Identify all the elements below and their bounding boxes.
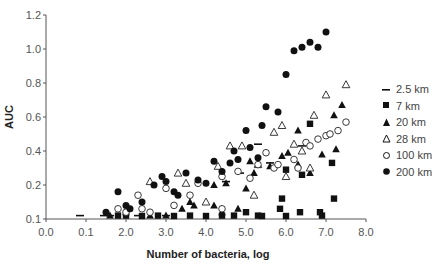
data-point-filled-circle bbox=[175, 192, 182, 199]
dash-marker-icon bbox=[382, 85, 391, 94]
data-point-open-triangle bbox=[282, 173, 290, 180]
data-point-square bbox=[243, 209, 249, 215]
data-point-filled-circle bbox=[291, 47, 298, 54]
data-point-open-circle bbox=[327, 131, 334, 138]
data-point-square bbox=[259, 213, 265, 219]
data-point-filled-circle bbox=[315, 44, 322, 51]
data-point-open-triangle bbox=[290, 140, 298, 147]
data-point-square bbox=[331, 195, 337, 201]
data-point-square bbox=[203, 213, 209, 219]
data-point-open-circle bbox=[343, 119, 350, 126]
data-point-open-circle bbox=[307, 143, 314, 150]
data-point-square bbox=[231, 212, 237, 218]
data-point-open-circle bbox=[219, 206, 226, 213]
data-point-filled-circle bbox=[243, 127, 250, 134]
data-point-filled-circle bbox=[211, 158, 218, 165]
legend-label: 20 km bbox=[396, 116, 426, 128]
x-tick-label: 5.0 bbox=[238, 226, 253, 238]
filled-circle-marker-icon bbox=[382, 167, 391, 176]
legend-item-2-5km: 2.5 km bbox=[382, 81, 432, 98]
data-point-filled-circle bbox=[203, 180, 210, 187]
data-point-open-circle bbox=[263, 149, 270, 156]
x-tick-label: 7.0 bbox=[318, 226, 333, 238]
data-point-open-circle bbox=[115, 206, 122, 213]
data-point-filled-circle bbox=[307, 39, 314, 46]
data-point-filled-circle bbox=[151, 182, 158, 189]
x-tick-label: 4.0 bbox=[198, 226, 213, 238]
data-point-filled-triangle bbox=[210, 181, 218, 188]
data-point-open-triangle bbox=[174, 169, 182, 176]
data-point-open-triangle bbox=[298, 147, 306, 154]
scatter-chart: 0.10.20.40.60.81.01.2 0.00.12.03.04.05.0… bbox=[0, 0, 437, 264]
data-point-open-triangle bbox=[310, 111, 318, 118]
legend-label: 28 km bbox=[396, 133, 426, 145]
data-point-filled-triangle bbox=[178, 205, 186, 212]
x-tick-label: 0.1 bbox=[78, 226, 93, 238]
square-marker-icon bbox=[382, 101, 391, 110]
data-point-dash bbox=[76, 215, 84, 217]
data-point-filled-circle bbox=[139, 199, 146, 206]
data-point-filled-circle bbox=[183, 170, 190, 177]
data-point-filled-circle bbox=[275, 108, 282, 115]
data-point-square bbox=[319, 212, 325, 218]
legend-item-20km: 20 km bbox=[382, 114, 432, 131]
data-point-filled-circle bbox=[195, 176, 202, 183]
data-point-square bbox=[283, 213, 289, 219]
data-point-filled-circle bbox=[227, 159, 234, 166]
y-tick-label: 1.2 bbox=[26, 9, 41, 21]
data-point-filled-triangle bbox=[330, 111, 338, 118]
y-tick-label: 0.1 bbox=[26, 213, 41, 225]
x-tick-label: 8.0 bbox=[358, 226, 373, 238]
data-point-open-circle bbox=[247, 175, 254, 182]
data-point-filled-triangle bbox=[222, 179, 230, 186]
x-tick-label: 2.0 bbox=[118, 226, 133, 238]
data-point-square bbox=[307, 121, 313, 127]
data-point-open-triangle bbox=[306, 164, 314, 171]
data-point-open-circle bbox=[335, 127, 342, 134]
data-point-open-circle bbox=[187, 192, 194, 199]
legend-label: 2.5 km bbox=[396, 83, 429, 95]
y-tick-label: 0.6 bbox=[26, 111, 41, 123]
legend-label: 100 km bbox=[396, 149, 432, 161]
data-point-open-triangle bbox=[278, 122, 286, 129]
data-point-open-circle bbox=[135, 192, 142, 199]
y-tick-label: 1.0 bbox=[26, 43, 41, 55]
data-point-filled-triangle bbox=[318, 150, 326, 157]
data-point-open-triangle bbox=[270, 128, 278, 135]
filled-triangle-marker-icon bbox=[382, 118, 391, 127]
data-point-filled-circle bbox=[247, 144, 254, 151]
y-tick-label: 0.4 bbox=[26, 145, 41, 157]
data-point-square bbox=[329, 160, 335, 166]
data-points bbox=[76, 29, 350, 220]
data-point-open-triangle bbox=[322, 91, 330, 98]
data-point-square bbox=[277, 206, 283, 212]
data-point-filled-triangle bbox=[332, 145, 340, 152]
data-point-open-circle bbox=[295, 165, 302, 172]
data-point-open-circle bbox=[315, 136, 322, 143]
data-point-filled-triangle bbox=[284, 149, 292, 156]
data-point-square bbox=[297, 209, 303, 215]
x-tick-label: 6.0 bbox=[278, 226, 293, 238]
legend-label: 200 km bbox=[396, 166, 432, 178]
data-point-filled-circle bbox=[299, 44, 306, 51]
data-point-filled-triangle bbox=[210, 201, 218, 208]
data-point-filled-triangle bbox=[234, 205, 242, 212]
data-point-filled-circle bbox=[219, 168, 226, 175]
data-point-open-circle bbox=[255, 161, 262, 168]
data-point-square bbox=[115, 212, 121, 218]
data-point-square bbox=[171, 213, 177, 219]
data-point-filled-circle bbox=[159, 173, 166, 180]
y-tick-label: 0.2 bbox=[26, 179, 41, 191]
legend-label: 7 km bbox=[396, 100, 420, 112]
x-axis-title: Number of bacteria, log bbox=[147, 248, 270, 260]
legend-item-7km: 7 km bbox=[382, 98, 432, 115]
data-point-square bbox=[139, 213, 145, 219]
data-point-filled-circle bbox=[255, 154, 262, 161]
x-tick-label: 0.0 bbox=[38, 226, 53, 238]
data-point-square bbox=[279, 195, 285, 201]
data-point-open-triangle bbox=[202, 198, 210, 205]
legend-item-200km: 200 km bbox=[382, 164, 432, 181]
data-point-open-circle bbox=[139, 206, 146, 213]
data-point-open-circle bbox=[171, 202, 178, 209]
data-point-open-triangle bbox=[182, 179, 190, 186]
